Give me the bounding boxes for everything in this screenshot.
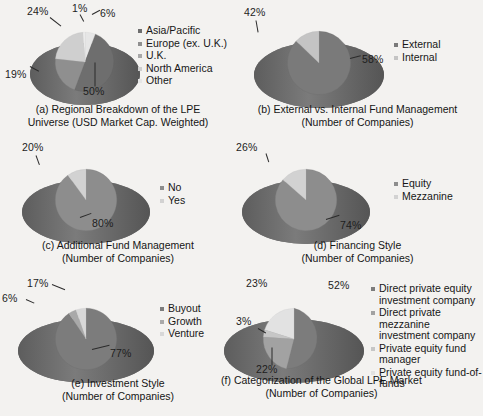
legend-swatch-internal [394, 56, 398, 60]
leader-line-f-3 [272, 348, 273, 366]
caption-line-1: (c) Additional Fund Management [0, 239, 236, 252]
legend-swatch-fund-manager [371, 347, 375, 351]
chart-cell-d: 26% 74% Equity Mezzanine (d) Financing S… [236, 139, 479, 275]
callout-a-3: 19% [5, 68, 26, 80]
legend-item: U.K. [138, 50, 227, 62]
legend-label: Yes [168, 195, 185, 207]
legend-swatch-europe [138, 42, 142, 46]
callout-f-2: 3% [236, 315, 251, 327]
legend-item: Direct private equity investment company [371, 283, 483, 306]
pie-top-a [30, 31, 140, 93]
legend-label: No [168, 182, 181, 194]
legend-item: Equity [394, 178, 453, 190]
legend-label: Other [146, 75, 172, 87]
callout-f-0: 23% [246, 277, 267, 289]
legend-swatch-asia-pacific [138, 29, 142, 33]
legend-label: Internal [402, 52, 437, 64]
legend-item: Internal [394, 52, 441, 64]
callout-b-0: 42% [244, 6, 265, 18]
leader-line-e-0 [52, 284, 65, 290]
legend-label: Equity [402, 178, 431, 190]
pie-top-c [22, 168, 150, 232]
callout-e-0: 17% [27, 277, 48, 289]
caption-line-2: (Number of Companies) [200, 387, 443, 400]
caption-line-2: (Number of Companies) [0, 252, 236, 265]
legend-item: Other [138, 75, 227, 87]
caption-line-2: Universe (USD Market Cap. Weighted) [0, 116, 236, 129]
chart-cell-a: 24% 1% 6% 19% 50% Asia/Pacific Europe (e… [0, 0, 236, 139]
chart-cell-c: 20% 80% No Yes (c) Additional Fund Manag… [0, 139, 236, 275]
callout-c-1: 80% [92, 217, 113, 229]
legend-swatch-no [160, 186, 164, 190]
callout-c-0: 20% [22, 141, 43, 153]
legend-item: Venture [160, 328, 204, 340]
legend-swatch-mezzanine [394, 195, 398, 199]
legend-label: Direct private mezzanine investment comp… [379, 307, 483, 342]
caption-a: (a) Regional Breakdown of the LPE Univer… [0, 103, 236, 128]
caption-line-1: (a) Regional Breakdown of the LPE [0, 103, 236, 116]
legend-label: External [402, 39, 441, 51]
caption-d: (d) Financing Style (Number of Companies… [236, 239, 479, 264]
caption-b: (b) External vs. Internal Fund Managemen… [236, 103, 479, 128]
legend-label: U.K. [146, 50, 166, 62]
legend-item: Private equity fund manager [371, 343, 483, 366]
callout-e-1: 6% [2, 292, 17, 304]
legend-b: External Internal [394, 39, 441, 64]
legend-item: Direct private mezzanine investment comp… [371, 307, 483, 342]
leader-line-a-4 [95, 63, 96, 87]
legend-label: Private equity fund manager [379, 343, 483, 366]
legend-label: Buyout [168, 303, 201, 315]
legend-swatch-equity [394, 182, 398, 186]
legend-label: Europe (ex. U.K.) [146, 38, 227, 50]
callout-d-1: 74% [340, 219, 361, 231]
callout-b-1: 58% [362, 53, 383, 65]
chart-cell-f: 23% 52% 3% 22% Direct private equity inv… [236, 275, 479, 416]
legend-item: Buyout [160, 303, 204, 315]
legend-label: North America [146, 63, 213, 75]
legend-label: Direct private equity investment company [379, 283, 483, 306]
legend-swatch-yes [160, 199, 164, 203]
legend-swatch-buyout [160, 307, 164, 311]
legend-label: Mezzanine [402, 191, 453, 203]
legend-swatch-direct-private-equity [371, 287, 375, 291]
legend-d: Equity Mezzanine [394, 178, 453, 203]
caption-line-1: (d) Financing Style [236, 239, 479, 252]
legend-label: Venture [168, 328, 204, 340]
legend-item: Mezzanine [394, 191, 453, 203]
legend-item: North America [138, 63, 227, 75]
callout-e-2: 77% [110, 347, 131, 359]
legend-swatch-other [138, 79, 142, 83]
legend-swatch-venture [160, 332, 164, 336]
callout-a-4: 50% [83, 85, 104, 97]
caption-line-2: (Number of Companies) [236, 252, 479, 265]
legend-item: Europe (ex. U.K.) [138, 38, 227, 50]
legend-e: Buyout Growth Venture [160, 303, 204, 341]
callout-d-0: 26% [236, 141, 257, 153]
legend-swatch-external [394, 43, 398, 47]
callout-a-2: 6% [100, 7, 115, 19]
caption-line-1: (b) External vs. Internal Fund Managemen… [236, 103, 479, 116]
legend-item: Asia/Pacific [138, 25, 227, 37]
leader-line-a-2 [92, 10, 100, 15]
legend-item: No [160, 182, 185, 194]
caption-line-1: (f) Categorization of the Global LPE Mar… [200, 374, 443, 387]
legend-label: Growth [168, 316, 202, 328]
legend-swatch-direct-private-mezzanine [371, 311, 375, 315]
legend-swatch-north-america [138, 67, 142, 71]
legend-item: Yes [160, 195, 185, 207]
callout-f-1: 52% [328, 279, 349, 291]
caption-f: (f) Categorization of the Global LPE Mar… [200, 374, 443, 399]
callout-a-0: 24% [27, 5, 48, 17]
legend-label: Asia/Pacific [146, 25, 200, 37]
caption-c: (c) Additional Fund Management (Number o… [0, 239, 236, 264]
chart-cell-b: 42% 58% External Internal (b) External v… [236, 0, 479, 139]
caption-line-2: (Number of Companies) [236, 116, 479, 129]
callout-a-1: 1% [72, 2, 87, 14]
legend-swatch-uk [138, 54, 142, 58]
legend-item: Growth [160, 316, 204, 328]
legend-item: External [394, 39, 441, 51]
legend-c: No Yes [160, 182, 185, 207]
pie-top-e [18, 307, 154, 371]
legend-a: Asia/Pacific Europe (ex. U.K.) U.K. Nort… [138, 25, 227, 88]
